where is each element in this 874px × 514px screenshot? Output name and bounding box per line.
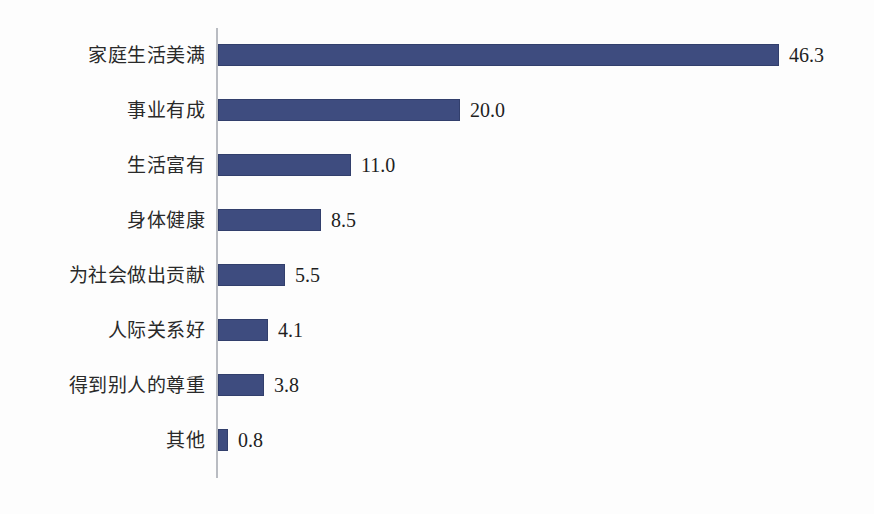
bar bbox=[218, 374, 264, 396]
bar-value-label: 0.8 bbox=[238, 429, 263, 451]
bar-row: 生活富有11.0 bbox=[0, 154, 874, 176]
bar-value-label: 20.0 bbox=[470, 99, 505, 121]
bar-value-label: 8.5 bbox=[331, 209, 356, 231]
category-label: 事业有成 bbox=[127, 99, 205, 121]
bar-row: 事业有成20.0 bbox=[0, 99, 874, 121]
bar bbox=[218, 429, 228, 451]
bar-value-label: 46.3 bbox=[789, 44, 824, 66]
category-label: 家庭生活美满 bbox=[88, 44, 205, 66]
bar-value-label: 11.0 bbox=[361, 154, 395, 176]
bar bbox=[218, 154, 351, 176]
bar-row: 家庭生活美满46.3 bbox=[0, 44, 874, 66]
bar-chart: 家庭生活美满46.3事业有成20.0生活富有11.0身体健康8.5为社会做出贡献… bbox=[0, 0, 874, 514]
category-label: 生活富有 bbox=[127, 154, 205, 176]
category-label: 人际关系好 bbox=[108, 319, 206, 341]
bar-value-label: 3.8 bbox=[274, 374, 299, 396]
bar bbox=[218, 264, 285, 286]
bar-row: 为社会做出贡献5.5 bbox=[0, 264, 874, 286]
bar-value-label: 4.1 bbox=[278, 319, 303, 341]
category-label: 身体健康 bbox=[127, 209, 205, 231]
bar-row: 其他0.8 bbox=[0, 429, 874, 451]
bar bbox=[218, 209, 321, 231]
bar-row: 得到别人的尊重3.8 bbox=[0, 374, 874, 396]
category-label: 其他 bbox=[166, 429, 205, 451]
bar-row: 人际关系好4.1 bbox=[0, 319, 874, 341]
bar-row: 身体健康8.5 bbox=[0, 209, 874, 231]
bar bbox=[218, 44, 779, 66]
bar bbox=[218, 99, 460, 121]
bar-value-label: 5.5 bbox=[295, 264, 320, 286]
bar-rows-container: 家庭生活美满46.3事业有成20.0生活富有11.0身体健康8.5为社会做出贡献… bbox=[0, 0, 874, 514]
bar bbox=[218, 319, 268, 341]
category-label: 得到别人的尊重 bbox=[69, 374, 206, 396]
category-label: 为社会做出贡献 bbox=[69, 264, 206, 286]
